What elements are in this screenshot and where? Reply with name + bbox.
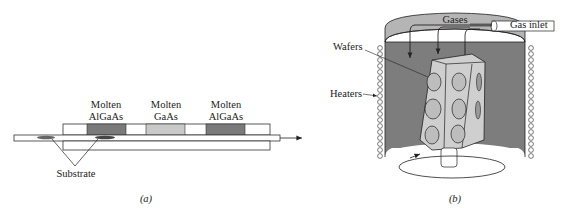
melt-label-2-line2: GaAs: [154, 111, 178, 122]
heaters-label: Heaters: [330, 88, 362, 99]
caption-b: (b): [449, 193, 462, 205]
figure-canvas: Molten AlGaAs Molten GaAs Molten AlGaAs …: [0, 0, 572, 208]
cvd-reactor-diagram: Gases Gas inlet Wafers Heaters (b): [330, 13, 554, 205]
substrate-left: [37, 136, 55, 140]
holder-stem: [441, 148, 457, 167]
wafer: [477, 73, 482, 91]
melt-well-1: [87, 124, 126, 135]
substrate-label: Substrate: [56, 168, 95, 179]
base-block: [63, 141, 270, 150]
melt-label-1-line1: Molten: [91, 99, 122, 110]
melt-label-1-line2: AlGaAs: [89, 111, 123, 122]
melt-well-2: [146, 124, 185, 135]
gases-label: Gases: [442, 14, 467, 25]
wafer: [452, 99, 466, 119]
melt-label-3-line2: AlGaAs: [209, 111, 243, 122]
melt-well-3: [206, 124, 245, 135]
caption-a: (a): [140, 193, 153, 205]
wafer: [452, 73, 466, 91]
substrate-under-melt: [95, 136, 115, 140]
wafer: [425, 126, 439, 144]
wafer: [425, 99, 441, 119]
heater-coils-right: [529, 46, 534, 159]
gas-inlet-label: Gas inlet: [510, 19, 548, 30]
heaters-leader: [363, 94, 377, 96]
wafers-label: Wafers: [333, 41, 362, 52]
lpe-boat-diagram: Molten AlGaAs Molten GaAs Molten AlGaAs …: [14, 99, 302, 205]
melt-label-3-line1: Molten: [211, 99, 242, 110]
wafer: [427, 73, 441, 91]
wafer: [476, 101, 481, 119]
heater-coils-left: [378, 46, 383, 159]
wafer: [451, 125, 465, 143]
melt-label-2-line1: Molten: [151, 99, 182, 110]
